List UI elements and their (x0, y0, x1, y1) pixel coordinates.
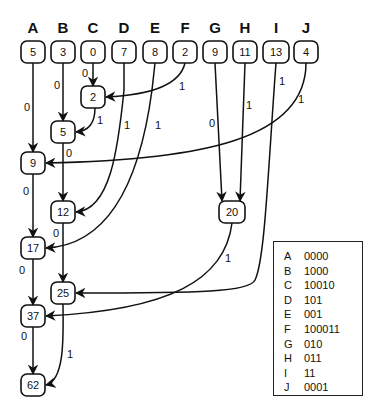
edge-label: 1 (97, 114, 103, 126)
node-value: 8 (152, 46, 158, 58)
node-value: 13 (270, 46, 282, 58)
node-value: 17 (27, 242, 39, 254)
leaf-node-f: 2 (173, 41, 197, 63)
legend-symbol: J (284, 380, 304, 395)
edge-2-to-5 (76, 108, 95, 132)
legend-code: 011 (304, 351, 322, 366)
legend-symbol: F (284, 322, 304, 337)
leaf-node-i: 13 (263, 41, 289, 63)
node-value: 0 (90, 46, 96, 58)
legend-code: 11 (304, 366, 315, 381)
column-label-j: J (302, 19, 310, 36)
edge-label: 1 (67, 348, 73, 360)
column-label-i: I (274, 19, 278, 36)
internal-node-25: 25 (51, 282, 75, 304)
edge-f-to-2 (106, 63, 185, 97)
edge-label: 0 (209, 117, 215, 129)
leaf-node-h: 11 (233, 41, 257, 63)
column-label-d: D (119, 19, 130, 36)
node-value: 4 (303, 46, 309, 58)
column-label-c: C (88, 19, 99, 36)
legend-row: H011 (284, 351, 362, 366)
legend-code: 100011 (304, 322, 340, 337)
legend-symbol: D (284, 293, 304, 308)
node-value: 3 (60, 46, 66, 58)
legend-symbol: C (284, 278, 304, 293)
column-label-e: E (150, 19, 160, 36)
edge-label: 0 (82, 67, 88, 79)
legend-code: 10010 (304, 278, 335, 293)
leaf-nodes: 5 3 0 7 8 2 9 11 13 4 (21, 41, 318, 63)
legend-symbol: G (284, 337, 304, 352)
internal-node-17: 17 (21, 237, 45, 259)
edge-label: 0 (23, 185, 29, 197)
edge-label: 1 (155, 119, 161, 131)
internal-node-9: 9 (21, 152, 45, 174)
edge-label: 1 (298, 93, 304, 105)
internal-node-37: 37 (21, 305, 45, 327)
node-value: 62 (27, 379, 39, 391)
edge-g-to-20 (215, 63, 222, 201)
node-value: 20 (226, 206, 238, 218)
edge-label: 1 (225, 252, 231, 264)
legend-row: B1000 (284, 264, 362, 279)
legend-code: 0001 (304, 380, 328, 395)
legend-code: 101 (304, 293, 322, 308)
node-value: 5 (60, 126, 66, 138)
internal-node-20: 20 (219, 201, 245, 223)
edge-label: 0 (24, 101, 30, 113)
edges: 0 1 0 1 0 1 0 1 0 1 0 1 0 (19, 63, 306, 385)
legend-row: J0001 (284, 380, 362, 395)
edge-label: 1 (279, 75, 285, 87)
internal-node-2: 2 (81, 86, 105, 108)
legend-code: 001 (304, 307, 322, 322)
leaf-node-j: 4 (294, 41, 318, 63)
leaf-node-c: 0 (81, 41, 105, 63)
legend-symbol: I (284, 366, 304, 381)
leaf-node-b: 3 (51, 41, 75, 63)
leaf-node-g: 9 (203, 41, 227, 63)
edge-label: 0 (53, 227, 59, 239)
column-label-f: F (180, 19, 189, 36)
node-value: 11 (239, 46, 250, 58)
legend-code: 0000 (304, 249, 328, 264)
internal-nodes: 2 5 9 12 20 17 25 37 62 (21, 86, 245, 396)
legend-row: G010 (284, 337, 362, 352)
legend-row: C10010 (284, 278, 362, 293)
node-value: 9 (212, 46, 218, 58)
node-value: 9 (30, 157, 36, 169)
column-label-a: A (28, 19, 39, 36)
legend-code: 1000 (304, 264, 328, 279)
internal-node-62: 62 (21, 374, 45, 396)
legend-symbol: B (284, 264, 304, 279)
internal-node-12: 12 (51, 201, 75, 223)
legend-symbol: H (284, 351, 304, 366)
edge-label: 0 (66, 147, 72, 159)
internal-node-5: 5 (51, 121, 75, 143)
edge-label: 0 (19, 264, 25, 276)
node-value: 2 (90, 91, 96, 103)
leaf-node-a: 5 (21, 41, 45, 63)
edge-label: 0 (54, 79, 60, 91)
node-value: 5 (30, 46, 36, 58)
column-labels: A B C D E F G H I J (28, 19, 311, 36)
column-label-b: B (58, 19, 69, 36)
node-value: 37 (27, 310, 39, 322)
code-legend: A0000 B1000 C10010 D101 E001 F100011 G01… (273, 241, 363, 396)
legend-symbol: A (284, 249, 304, 264)
legend-row: I11 (284, 366, 362, 381)
legend-row: D101 (284, 293, 362, 308)
edge-h-to-20 (240, 63, 245, 201)
legend-row: E001 (284, 307, 362, 322)
edge-label: 1 (246, 99, 252, 111)
legend-symbol: E (284, 307, 304, 322)
edge-i-to-25 (76, 63, 276, 293)
leaf-node-d: 7 (112, 41, 136, 63)
leaf-node-e: 8 (143, 41, 167, 63)
legend-row: A0000 (284, 249, 362, 264)
node-value: 7 (121, 46, 127, 58)
node-value: 2 (182, 46, 188, 58)
node-value: 25 (57, 287, 69, 299)
legend-row: F100011 (284, 322, 362, 337)
column-label-g: G (209, 19, 221, 36)
